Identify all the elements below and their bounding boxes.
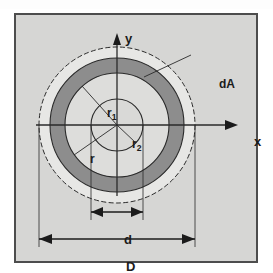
r1-label-subscript: 1 bbox=[112, 112, 117, 122]
figure-root: y x dA r1 r2 r d D bbox=[0, 0, 273, 273]
x-axis-label: x bbox=[254, 135, 261, 148]
diagram-frame: y x dA r1 r2 r d D bbox=[14, 13, 258, 263]
scan-artifact-strip bbox=[0, 0, 273, 9]
dA-label: dA bbox=[219, 78, 235, 90]
d-arrowhead-right bbox=[131, 207, 143, 217]
r2-label-subscript: 2 bbox=[137, 143, 142, 153]
x-axis-arrowhead bbox=[225, 120, 238, 130]
D-dimension-label: D bbox=[126, 260, 135, 273]
D-arrowhead-left bbox=[39, 234, 52, 244]
r1-label: r1 bbox=[107, 107, 116, 122]
d-dimension-label: d bbox=[124, 233, 132, 246]
r-label: r bbox=[90, 153, 95, 165]
y-axis-arrowhead bbox=[113, 33, 121, 45]
y-axis-label: y bbox=[125, 32, 132, 45]
D-arrowhead-right bbox=[182, 234, 195, 244]
d-arrowhead-left bbox=[91, 207, 103, 217]
r2-label: r2 bbox=[132, 138, 141, 153]
